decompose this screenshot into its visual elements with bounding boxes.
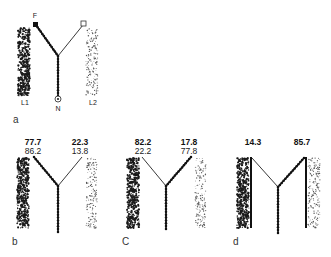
right-top-value: 85.7 (294, 137, 311, 147)
left-stippled-bar (16, 157, 30, 229)
F-label: F (33, 12, 37, 19)
left-bottom-value: 22.2 (135, 146, 152, 156)
stem (57, 185, 60, 234)
y-configuration-diagram: aFNL1L2b77.722.386.213.8C82.217.822.277.… (0, 0, 331, 257)
panel-c: C82.217.822.277.8 (122, 137, 206, 247)
panel-d: d14.385.7 (233, 137, 321, 247)
stem (57, 55, 60, 98)
right-arm (58, 157, 82, 186)
panel-b: b77.722.386.213.8 (12, 137, 98, 247)
right-bottom-value: 13.8 (72, 146, 89, 156)
panel-letter: b (12, 236, 18, 247)
right-arm (277, 157, 306, 189)
L2-label: L2 (89, 99, 97, 106)
left-arm (35, 24, 60, 58)
panel-letter: C (122, 236, 129, 247)
right-bottom-value: 77.8 (181, 146, 198, 156)
panel-a: aFNL1L2 (13, 12, 98, 125)
left-arm (252, 158, 278, 187)
right-arm (58, 25, 83, 56)
right-stippled-bar (195, 158, 207, 228)
right-stippled-bar (85, 28, 98, 95)
left-stippled-bar (17, 27, 31, 96)
stem (277, 186, 280, 235)
panels-group: aFNL1L2b77.722.386.213.8C82.217.822.277.… (12, 12, 321, 247)
left-stippled-bar (236, 157, 250, 229)
left-bottom-value: 86.2 (25, 146, 42, 156)
filled-square-marker-icon (33, 22, 38, 27)
circled-dot-center-icon (57, 98, 59, 100)
left-arm (142, 157, 166, 186)
open-square-marker-icon (81, 21, 86, 26)
right-stippled-bar (307, 157, 320, 228)
N-label: N (55, 105, 60, 112)
left-arm (33, 156, 60, 188)
panel-letter: d (233, 236, 239, 247)
left-stippled-bar (126, 157, 140, 229)
right-arm (165, 156, 193, 188)
left-top-value: 14.3 (245, 137, 262, 147)
panel-letter: a (13, 114, 19, 125)
right-stippled-bar (86, 158, 98, 229)
L1-label: L1 (21, 99, 29, 106)
stem (165, 185, 168, 231)
